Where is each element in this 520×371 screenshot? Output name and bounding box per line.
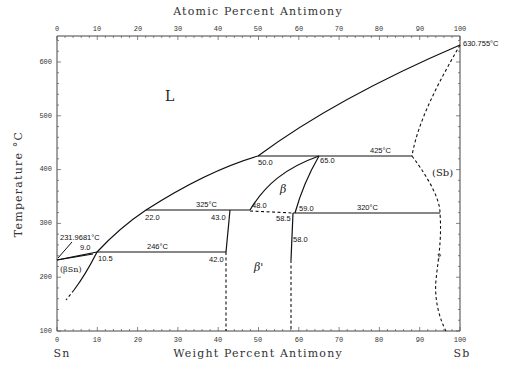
svg-text:70: 70	[335, 336, 343, 344]
x-bottom-tick-labels: 0 10 20 30 40 50 60 70 80 90 100	[55, 336, 466, 344]
svg-text:100: 100	[454, 336, 467, 344]
invariant-325-dashed	[250, 211, 293, 213]
svg-text:50: 50	[254, 25, 262, 33]
svg-text:50: 50	[254, 336, 262, 344]
liquidus-sb-side	[258, 45, 460, 156]
phase-label-liquid: L	[165, 88, 174, 104]
sb-solidus-dashed	[412, 45, 460, 156]
comp-22-0: 22.0	[145, 213, 160, 222]
svg-text:600: 600	[39, 58, 52, 66]
sn-melting-arrow	[58, 242, 72, 258]
comp-58-0: 58.0	[293, 235, 308, 244]
svg-text:10: 10	[93, 25, 101, 33]
svg-text:0: 0	[55, 336, 59, 344]
solvus-betasn-ext	[66, 290, 74, 300]
svg-text:100: 100	[39, 327, 52, 335]
phase-diagram: Atomic Percent Antimony Weight Percent A…	[0, 0, 520, 371]
sb-solvus-dashed	[412, 156, 446, 331]
label-320c: 320°C	[357, 203, 379, 212]
comp-48-0: 48.0	[252, 201, 267, 210]
svg-text:80: 80	[375, 25, 383, 33]
label-246c: 246°C	[147, 242, 169, 251]
sb-melting-point-label: 630.755°C	[463, 39, 499, 48]
svg-text:70: 70	[335, 25, 343, 33]
y-tick-labels: 100 200 300 400 500 600	[39, 58, 52, 335]
y-axis-title: Temperature °C	[12, 131, 25, 237]
comp-10-5: 10.5	[98, 254, 113, 263]
comp-42-0: 42.0	[209, 255, 224, 264]
comp-43-0: 43.0	[211, 213, 226, 222]
label-425c: 425°C	[370, 146, 392, 155]
phase-label-unknown: ?	[437, 252, 441, 261]
comp-9-0: 9.0	[80, 243, 90, 252]
svg-text:20: 20	[134, 25, 142, 33]
svg-text:100: 100	[454, 25, 467, 33]
liquidus-sn-side	[97, 210, 146, 252]
svg-text:30: 30	[174, 336, 182, 344]
plot-frame	[57, 36, 460, 331]
svg-text:90: 90	[416, 25, 424, 33]
comp-59-0: 59.0	[299, 204, 314, 213]
sn-melting-point-label: 231.9681°C	[60, 233, 100, 242]
svg-text:90: 90	[416, 336, 424, 344]
right-element-label: Sb	[454, 347, 471, 360]
phase-label-beta-prime: β'	[253, 261, 263, 274]
label-325c: 325°C	[196, 200, 218, 209]
x-top-tick-labels: 0 10 20 30 40 50 60 70 80 90 100	[55, 25, 466, 33]
comp-65-0: 65.0	[320, 156, 335, 165]
solidus-betasn	[57, 254, 93, 260]
phase-label-beta-sn: (βSn)	[60, 265, 82, 274]
left-element-label: Sn	[53, 347, 70, 360]
svg-text:60: 60	[295, 336, 303, 344]
phase-label-sb: (Sb)	[432, 167, 453, 178]
svg-text:20: 20	[134, 336, 142, 344]
svg-text:10: 10	[93, 336, 101, 344]
svg-text:400: 400	[39, 165, 52, 173]
beta-prime-left-solidus	[226, 210, 230, 252]
comp-58-5: 58.5	[276, 214, 291, 223]
phase-label-beta: β	[279, 183, 286, 196]
svg-text:80: 80	[375, 336, 383, 344]
svg-text:30: 30	[174, 25, 182, 33]
svg-text:0: 0	[55, 25, 59, 33]
axis-ticks	[57, 36, 460, 331]
svg-text:40: 40	[214, 336, 222, 344]
svg-text:200: 200	[39, 273, 52, 281]
svg-text:500: 500	[39, 112, 52, 120]
top-axis-title: Atomic Percent Antimony	[172, 5, 343, 18]
comp-50-0: 50.0	[258, 158, 273, 167]
svg-text:40: 40	[214, 25, 222, 33]
svg-text:60: 60	[295, 25, 303, 33]
bottom-axis-title: Weight Percent Antimony	[173, 347, 343, 360]
svg-text:300: 300	[39, 219, 52, 227]
